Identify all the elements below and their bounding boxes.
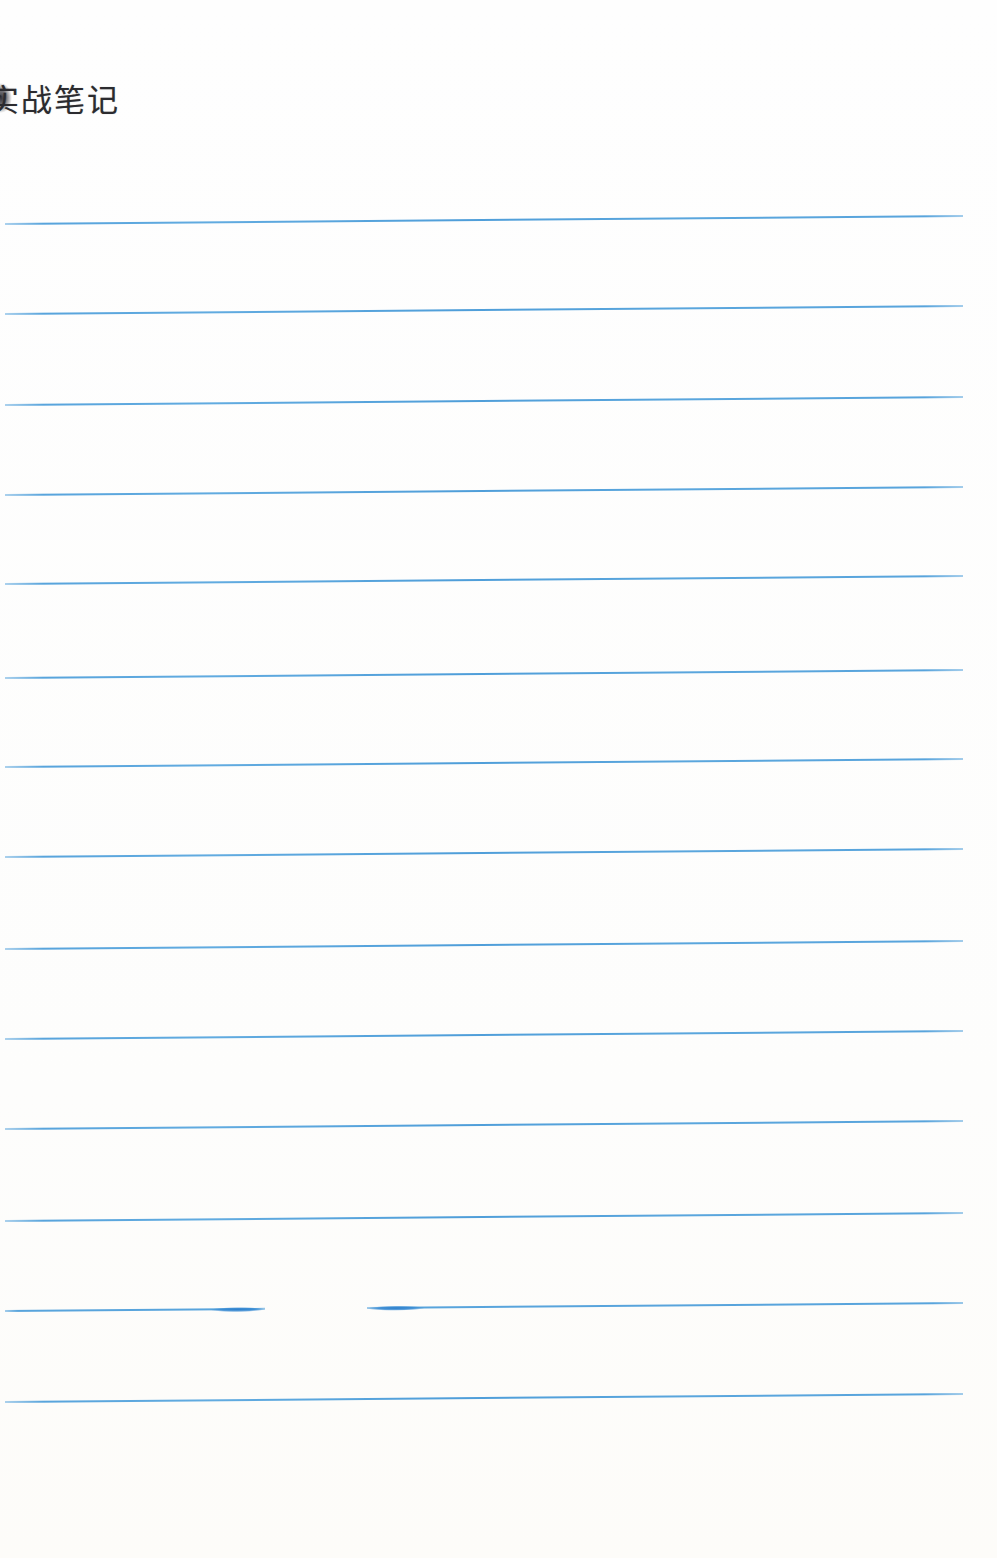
ruled-line — [5, 1393, 963, 1403]
ruled-line — [5, 1030, 963, 1040]
notebook-page: 实战笔记 — [0, 0, 997, 1558]
ruled-line — [5, 396, 963, 406]
ruled-line-segment — [367, 1302, 963, 1309]
ruled-line — [5, 940, 963, 950]
ruled-line — [5, 758, 963, 768]
ruled-line — [5, 848, 963, 858]
ruled-line — [5, 669, 963, 679]
ruled-line — [5, 575, 963, 585]
ruled-line — [5, 1302, 963, 1312]
ruled-lines — [0, 0, 997, 1558]
ruled-line — [5, 1212, 963, 1222]
ruled-line — [5, 305, 963, 315]
ruled-line — [5, 486, 963, 496]
ruled-line — [5, 215, 963, 225]
ink-blot — [367, 1305, 425, 1310]
ink-blot — [210, 1306, 265, 1311]
ruled-line — [5, 1120, 963, 1130]
